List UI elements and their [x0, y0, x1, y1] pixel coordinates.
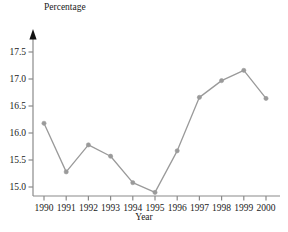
- data-point-marker: [86, 143, 90, 147]
- data-point-marker: [64, 170, 68, 174]
- x-axis-tick-label: 1998: [212, 203, 231, 213]
- x-axis-title: Year: [0, 212, 288, 222]
- x-axis-tick-label: 1991: [57, 203, 76, 213]
- x-axis-tick-label: 1993: [101, 203, 120, 213]
- data-point-marker: [42, 121, 46, 125]
- x-axis-tick-label: 1999: [234, 203, 253, 213]
- x-axis-tick-label: 1992: [79, 203, 98, 213]
- y-axis-tick-label: 15.0: [9, 182, 26, 192]
- x-axis-tick-label: 2000: [257, 203, 276, 213]
- chart-plot-area: 15.015.516.016.517.017.51990199119921993…: [0, 0, 288, 232]
- x-axis-tick-label: 1990: [35, 203, 54, 213]
- data-point-marker: [220, 79, 224, 83]
- data-point-marker: [109, 154, 113, 158]
- x-axis-tick-label: 1996: [168, 203, 187, 213]
- line-chart: Percentage 15.015.516.016.517.017.519901…: [0, 0, 288, 232]
- x-axis-tick-label: 1997: [190, 203, 209, 213]
- data-point-marker: [131, 181, 135, 185]
- data-series-line: [44, 70, 266, 192]
- x-axis-tick-label: 1994: [123, 203, 142, 213]
- x-axis-tick-label: 1995: [146, 203, 165, 213]
- y-axis-tick-label: 15.5: [9, 155, 26, 165]
- y-axis-arrow-icon: [29, 29, 36, 40]
- data-point-marker: [264, 96, 268, 100]
- y-axis-tick-label: 17.0: [9, 74, 26, 84]
- y-axis-tick-label: 17.5: [9, 47, 26, 57]
- data-point-marker: [153, 190, 157, 194]
- y-axis-tick-label: 16.0: [9, 128, 26, 138]
- y-axis-tick-label: 16.5: [9, 101, 26, 111]
- data-point-marker: [175, 149, 179, 153]
- data-point-marker: [197, 95, 201, 99]
- data-point-marker: [242, 68, 246, 72]
